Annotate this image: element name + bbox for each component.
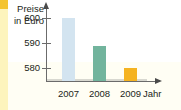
x-tick-label-2007: 2007: [54, 88, 84, 99]
x-axis-title: Jahr: [143, 88, 161, 99]
bar-group: [0, 0, 181, 81]
bar-chart-figure: Preise in Euro 600590580 200720082009 Ja…: [0, 0, 181, 110]
bar-2008: [93, 46, 106, 81]
bar-2007: [62, 18, 75, 81]
x-tick-label-2009: 2009: [116, 88, 146, 99]
bar-2009: [124, 68, 137, 81]
x-tick-label-2008: 2008: [85, 88, 115, 99]
x-axis-line: [46, 81, 156, 82]
